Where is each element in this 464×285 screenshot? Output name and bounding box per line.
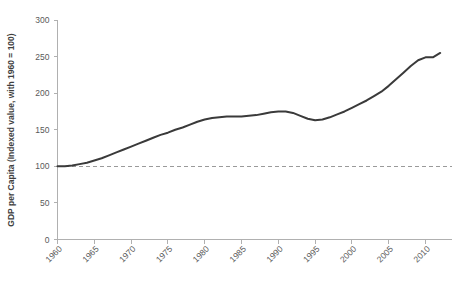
x-axis-ticks (58, 240, 426, 244)
x-axis-tick-labels: 1960196519701975198019851990199520002005… (43, 244, 432, 265)
x-tick-label: 2010 (411, 244, 432, 265)
x-tick-label: 1970 (117, 244, 138, 265)
x-tick-label: 1975 (154, 244, 175, 265)
x-tick-label: 1960 (43, 244, 64, 265)
y-tick-label: 200 (35, 88, 49, 98)
chart-container: 050100150200250300 196019651970197519801… (0, 0, 464, 285)
y-tick-label: 100 (35, 161, 49, 171)
x-tick-label: 1965 (80, 244, 101, 265)
y-tick-label: 150 (35, 125, 49, 135)
x-tick-label: 1985 (227, 244, 248, 265)
y-tick-label: 0 (45, 235, 50, 245)
y-tick-label: 250 (35, 52, 49, 62)
y-axis: 050100150200250300 (35, 15, 57, 245)
line-chart: 050100150200250300 196019651970197519801… (0, 0, 464, 285)
gdp-per-capita-line (58, 53, 441, 166)
y-axis-title: GDP per Capita (Indexed value, with 1960… (6, 33, 16, 226)
y-axis-tick-labels: 050100150200250300 (35, 15, 49, 245)
x-tick-label: 1990 (264, 244, 285, 265)
x-tick-label: 2005 (375, 244, 396, 265)
x-axis: 1960196519701975198019851990199520002005… (43, 240, 452, 265)
y-tick-label: 300 (35, 15, 49, 25)
x-tick-label: 1995 (301, 244, 322, 265)
y-tick-label: 50 (40, 198, 50, 208)
x-tick-label: 1980 (191, 244, 212, 265)
y-axis-ticks (54, 20, 58, 240)
x-tick-label: 2000 (338, 244, 359, 265)
